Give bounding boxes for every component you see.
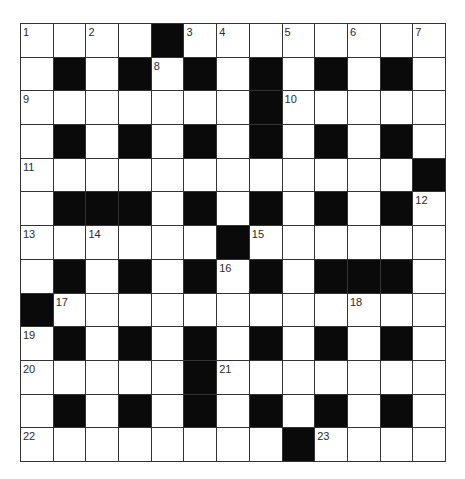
answer-cell[interactable]: 11	[21, 159, 54, 193]
answer-cell[interactable]	[86, 125, 119, 159]
answer-cell[interactable]	[86, 428, 119, 462]
answer-cell[interactable]	[119, 24, 152, 58]
answer-cell[interactable]: 4	[217, 24, 250, 58]
answer-cell[interactable]	[283, 58, 316, 92]
answer-cell[interactable]	[217, 327, 250, 361]
answer-cell[interactable]	[250, 294, 283, 328]
answer-cell[interactable]: 9	[21, 91, 54, 125]
answer-cell[interactable]	[119, 428, 152, 462]
answer-cell[interactable]	[54, 361, 87, 395]
answer-cell[interactable]: 5	[283, 24, 316, 58]
answer-cell[interactable]	[152, 294, 185, 328]
answer-cell[interactable]	[315, 226, 348, 260]
answer-cell[interactable]	[250, 159, 283, 193]
answer-cell[interactable]	[283, 361, 316, 395]
answer-cell[interactable]	[348, 159, 381, 193]
answer-cell[interactable]	[413, 125, 446, 159]
answer-cell[interactable]	[21, 192, 54, 226]
answer-cell[interactable]	[152, 226, 185, 260]
answer-cell[interactable]	[283, 395, 316, 429]
answer-cell[interactable]: 18	[348, 294, 381, 328]
answer-cell[interactable]	[348, 361, 381, 395]
answer-cell[interactable]: 19	[21, 327, 54, 361]
answer-cell[interactable]	[86, 327, 119, 361]
answer-cell[interactable]	[283, 294, 316, 328]
answer-cell[interactable]: 21	[217, 361, 250, 395]
answer-cell[interactable]	[381, 226, 414, 260]
answer-cell[interactable]	[152, 91, 185, 125]
answer-cell[interactable]	[217, 428, 250, 462]
answer-cell[interactable]	[184, 428, 217, 462]
answer-cell[interactable]	[21, 125, 54, 159]
answer-cell[interactable]	[250, 428, 283, 462]
answer-cell[interactable]	[152, 125, 185, 159]
answer-cell[interactable]	[21, 395, 54, 429]
answer-cell[interactable]	[217, 125, 250, 159]
answer-cell[interactable]	[413, 361, 446, 395]
answer-cell[interactable]	[86, 361, 119, 395]
answer-cell[interactable]	[381, 294, 414, 328]
answer-cell[interactable]: 10	[283, 91, 316, 125]
answer-cell[interactable]	[348, 192, 381, 226]
answer-cell[interactable]	[413, 294, 446, 328]
answer-cell[interactable]	[413, 91, 446, 125]
answer-cell[interactable]	[217, 58, 250, 92]
answer-cell[interactable]	[152, 159, 185, 193]
answer-cell[interactable]	[381, 91, 414, 125]
answer-cell[interactable]: 22	[21, 428, 54, 462]
answer-cell[interactable]	[348, 327, 381, 361]
answer-cell[interactable]	[184, 159, 217, 193]
answer-cell[interactable]: 6	[348, 24, 381, 58]
answer-cell[interactable]: 13	[21, 226, 54, 260]
answer-cell[interactable]	[381, 24, 414, 58]
answer-cell[interactable]	[152, 361, 185, 395]
answer-cell[interactable]	[152, 192, 185, 226]
answer-cell[interactable]	[217, 159, 250, 193]
answer-cell[interactable]	[152, 260, 185, 294]
answer-cell[interactable]: 14	[86, 226, 119, 260]
answer-cell[interactable]	[348, 58, 381, 92]
answer-cell[interactable]	[217, 91, 250, 125]
answer-cell[interactable]	[54, 24, 87, 58]
answer-cell[interactable]: 12	[413, 192, 446, 226]
answer-cell[interactable]	[348, 226, 381, 260]
answer-cell[interactable]	[283, 260, 316, 294]
answer-cell[interactable]	[413, 395, 446, 429]
answer-cell[interactable]	[152, 428, 185, 462]
answer-cell[interactable]	[86, 91, 119, 125]
answer-cell[interactable]: 2	[86, 24, 119, 58]
answer-cell[interactable]	[119, 294, 152, 328]
answer-cell[interactable]	[86, 260, 119, 294]
answer-cell[interactable]	[119, 361, 152, 395]
answer-cell[interactable]	[283, 159, 316, 193]
answer-cell[interactable]: 15	[250, 226, 283, 260]
answer-cell[interactable]	[413, 58, 446, 92]
answer-cell[interactable]	[21, 58, 54, 92]
answer-cell[interactable]	[413, 327, 446, 361]
answer-cell[interactable]	[381, 361, 414, 395]
answer-cell[interactable]	[152, 327, 185, 361]
answer-cell[interactable]	[54, 428, 87, 462]
answer-cell[interactable]	[217, 192, 250, 226]
answer-cell[interactable]	[119, 226, 152, 260]
answer-cell[interactable]: 17	[54, 294, 87, 328]
answer-cell[interactable]	[381, 428, 414, 462]
answer-cell[interactable]	[283, 327, 316, 361]
answer-cell[interactable]	[119, 91, 152, 125]
answer-cell[interactable]	[315, 361, 348, 395]
answer-cell[interactable]	[348, 428, 381, 462]
answer-cell[interactable]	[283, 226, 316, 260]
answer-cell[interactable]	[21, 260, 54, 294]
answer-cell[interactable]	[54, 91, 87, 125]
answer-cell[interactable]	[86, 159, 119, 193]
answer-cell[interactable]: 8	[152, 58, 185, 92]
answer-cell[interactable]: 3	[184, 24, 217, 58]
answer-cell[interactable]	[217, 395, 250, 429]
answer-cell[interactable]	[315, 91, 348, 125]
answer-cell[interactable]	[283, 125, 316, 159]
answer-cell[interactable]	[413, 260, 446, 294]
answer-cell[interactable]	[86, 395, 119, 429]
answer-cell[interactable]	[54, 159, 87, 193]
answer-cell[interactable]	[413, 428, 446, 462]
answer-cell[interactable]	[348, 125, 381, 159]
